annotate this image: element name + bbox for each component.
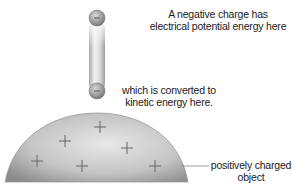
positively-charged-object xyxy=(5,113,188,182)
kinetic-energy-label: which is converted to kinetic energy her… xyxy=(114,84,224,108)
negative-charge-bottom xyxy=(89,83,105,99)
object-label-line2: object xyxy=(208,171,292,183)
object-label: positively charged object xyxy=(208,159,292,183)
object-label-line1: positively charged xyxy=(208,159,292,171)
kinetic-energy-line1: which is converted to xyxy=(114,84,224,96)
potential-energy-label: A negative charge has electrical potenti… xyxy=(148,8,288,32)
charge-path-tube xyxy=(89,22,105,92)
negative-charge-top xyxy=(89,10,105,26)
kinetic-energy-line2: kinetic energy here. xyxy=(114,96,224,108)
potential-energy-line1: A negative charge has xyxy=(148,8,288,20)
potential-energy-line2: electrical potential energy here xyxy=(148,20,288,32)
